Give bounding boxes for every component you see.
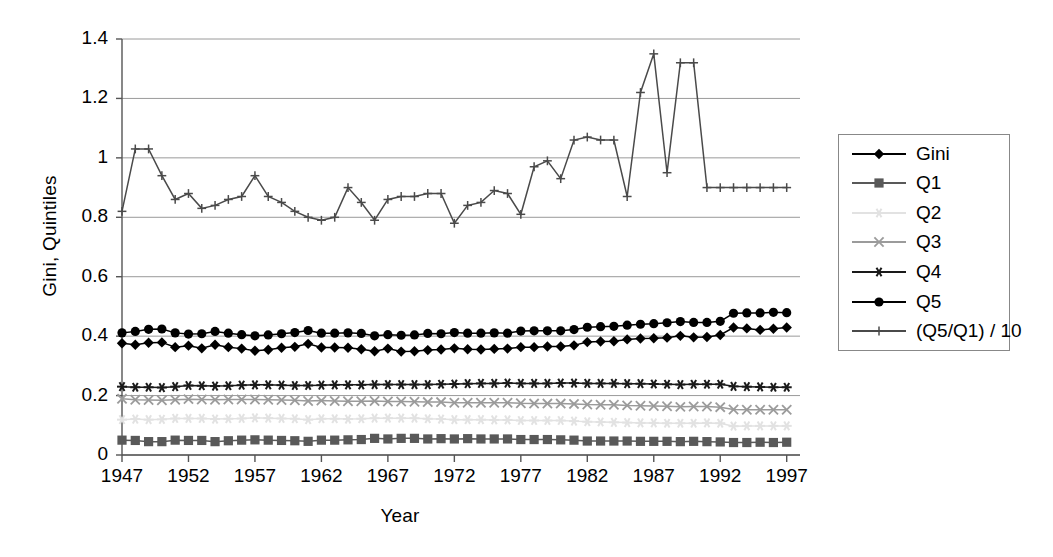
data-point bbox=[742, 323, 752, 333]
data-point bbox=[490, 434, 499, 443]
legend-item-q5[interactable]: Q5 bbox=[839, 288, 1009, 316]
data-point bbox=[356, 344, 366, 354]
y-tick-label: 0.8 bbox=[54, 205, 108, 227]
data-point bbox=[330, 342, 340, 352]
data-point bbox=[502, 343, 512, 353]
data-point bbox=[530, 435, 539, 444]
data-point bbox=[250, 346, 260, 356]
data-point bbox=[117, 436, 126, 445]
data-point bbox=[755, 325, 765, 335]
data-point bbox=[357, 435, 366, 444]
data-point bbox=[369, 346, 379, 356]
y-tick-label: 0.2 bbox=[54, 384, 108, 406]
data-point bbox=[662, 332, 672, 342]
legend-marker-diamond-icon bbox=[848, 142, 910, 166]
legend-item-q3[interactable]: Q3 bbox=[839, 228, 1009, 256]
legend-item-gini[interactable]: Gini bbox=[839, 140, 1009, 168]
data-point bbox=[662, 318, 671, 327]
data-point bbox=[702, 318, 711, 327]
data-point bbox=[277, 329, 286, 338]
data-point bbox=[157, 337, 167, 347]
data-point bbox=[304, 326, 313, 335]
data-point bbox=[449, 343, 459, 353]
legend-label: (Q5/Q1) / 10 bbox=[916, 320, 1022, 342]
legend-item-q1[interactable]: Q1 bbox=[839, 169, 1009, 197]
data-point bbox=[595, 336, 605, 346]
data-point bbox=[410, 330, 419, 339]
data-point bbox=[768, 324, 778, 334]
data-point bbox=[223, 342, 233, 352]
data-point bbox=[649, 437, 658, 446]
series--q5-q1-10 bbox=[118, 49, 792, 227]
legend-label: Q1 bbox=[916, 172, 941, 194]
data-point bbox=[343, 343, 353, 353]
legend-item--q5-q1-10[interactable]: (Q5/Q1) / 10 bbox=[839, 317, 1009, 345]
data-point bbox=[556, 435, 565, 444]
data-point bbox=[516, 342, 526, 352]
legend-label: Q3 bbox=[916, 231, 941, 253]
data-point bbox=[609, 436, 618, 445]
data-point bbox=[436, 329, 445, 338]
data-point bbox=[397, 331, 406, 340]
data-point bbox=[277, 436, 286, 445]
data-point bbox=[263, 345, 273, 355]
legend-item-q2[interactable]: Q2 bbox=[839, 199, 1009, 227]
series-line bbox=[122, 399, 787, 410]
data-point bbox=[370, 331, 379, 340]
data-point bbox=[596, 322, 605, 331]
data-point bbox=[874, 297, 883, 306]
data-point bbox=[623, 321, 632, 330]
y-tick-label: 1.4 bbox=[54, 27, 108, 49]
data-point bbox=[157, 437, 166, 446]
data-point bbox=[343, 328, 352, 337]
data-point bbox=[529, 342, 539, 352]
series-q2 bbox=[117, 414, 792, 431]
data-point bbox=[583, 323, 592, 332]
data-point bbox=[874, 149, 884, 159]
legend-item-q4[interactable]: Q4 bbox=[839, 258, 1009, 286]
data-point bbox=[516, 435, 525, 444]
data-point bbox=[636, 320, 645, 329]
data-point bbox=[729, 438, 738, 447]
data-point bbox=[556, 326, 565, 335]
legend-marker-plus-icon bbox=[848, 319, 910, 343]
data-point bbox=[131, 327, 140, 336]
data-point bbox=[569, 436, 578, 445]
data-point bbox=[224, 329, 233, 338]
data-point bbox=[662, 437, 671, 446]
data-point bbox=[131, 436, 140, 445]
data-point bbox=[543, 326, 552, 335]
legend-label: Gini bbox=[916, 143, 950, 165]
y-tick-label: 1 bbox=[54, 146, 108, 168]
data-point bbox=[316, 342, 326, 352]
data-point bbox=[463, 434, 472, 443]
data-point bbox=[144, 325, 153, 334]
data-point bbox=[635, 333, 645, 343]
data-point bbox=[396, 346, 406, 356]
legend-marker-circle-icon bbox=[848, 290, 910, 314]
data-point bbox=[476, 434, 485, 443]
data-point bbox=[543, 435, 552, 444]
data-point bbox=[144, 437, 153, 446]
data-point bbox=[423, 434, 432, 443]
data-point bbox=[769, 308, 778, 317]
x-tick-label: 1997 bbox=[742, 465, 832, 487]
data-point bbox=[117, 338, 127, 348]
data-point bbox=[542, 341, 552, 351]
data-point bbox=[503, 434, 512, 443]
legend-marker-x-gray-icon bbox=[848, 230, 910, 254]
data-point bbox=[210, 327, 219, 336]
legend-marker-star-light-icon bbox=[848, 201, 910, 225]
data-point bbox=[675, 331, 685, 341]
data-point bbox=[170, 342, 180, 352]
y-axis-title: Gini, Quintiles bbox=[39, 66, 61, 406]
x-axis-title: Year bbox=[0, 505, 800, 527]
data-point bbox=[516, 326, 525, 335]
data-point bbox=[436, 434, 445, 443]
data-point bbox=[303, 339, 313, 349]
data-point bbox=[782, 322, 792, 332]
data-point bbox=[636, 437, 645, 446]
data-point bbox=[290, 328, 299, 337]
data-point bbox=[463, 329, 472, 338]
series-gini bbox=[117, 322, 792, 356]
